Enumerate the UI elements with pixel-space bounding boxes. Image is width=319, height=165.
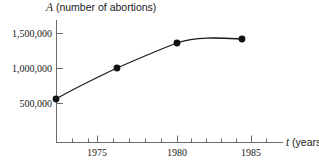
x-tick-label-1980: 1980 [155,147,199,158]
y-tick-label-1000000: 1,000,000 [0,63,52,74]
data-curve [56,38,242,99]
x-axis-minor-ticks [73,139,267,143]
x-tick-label-1975: 1975 [75,147,119,158]
chart-plot-area [0,0,319,165]
data-point [174,40,181,47]
y-axis-title-text: (number of abortions) [53,1,156,13]
data-point [53,96,60,103]
data-point [239,36,246,43]
y-tick-label-1500000: 1,500,000 [0,28,52,39]
x-axis-title: t (years [286,136,319,148]
y-tick-label-500000: 500,000 [0,98,52,109]
x-axis-title-text: (years [289,136,319,148]
x-tick-label-1985: 1985 [229,147,273,158]
y-axis-ticks [57,34,64,104]
chart-figure: A (number of abortions) t (years 1,500,0… [0,0,319,165]
data-point-markers [53,36,246,103]
y-axis-title: A (number of abortions) [46,1,156,13]
x-axis-major-ticks [98,136,252,143]
y-axis-variable: A [46,1,53,13]
data-point [114,65,121,72]
